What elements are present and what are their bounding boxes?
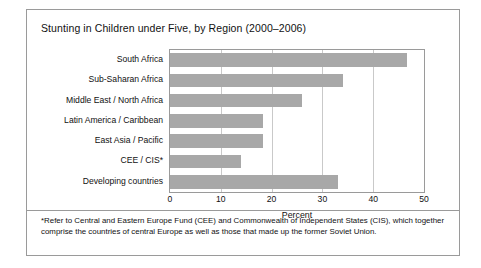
plot-area xyxy=(169,49,425,193)
bar-row xyxy=(170,151,424,171)
bar xyxy=(170,155,241,169)
bar xyxy=(170,74,343,88)
category-label: Developing countries xyxy=(83,171,163,191)
bar xyxy=(170,94,302,108)
bar-row xyxy=(170,172,424,192)
x-tick-label: 40 xyxy=(368,194,378,204)
x-tick-label: 0 xyxy=(168,194,173,204)
category-label: Sub-Saharan Africa xyxy=(88,69,163,89)
x-tick-label: 30 xyxy=(318,194,328,204)
category-label: South Africa xyxy=(117,49,163,69)
category-label: CEE / CIS* xyxy=(120,150,163,170)
x-tick-label: 10 xyxy=(216,194,226,204)
bar-row xyxy=(170,131,424,151)
category-axis: South AfricaSub-Saharan AfricaMiddle Eas… xyxy=(27,49,169,191)
bar-row xyxy=(170,111,424,131)
x-tick-label: 50 xyxy=(419,194,429,204)
bar-row xyxy=(170,70,424,90)
plot-wrapper: South AfricaSub-Saharan AfricaMiddle Eas… xyxy=(27,49,461,199)
chart-footnote: *Refer to Central and Eastern Europe Fun… xyxy=(41,216,447,237)
footnote-divider xyxy=(27,210,459,211)
category-label: East Asia / Pacific xyxy=(95,130,163,150)
bar xyxy=(170,175,338,189)
chart-figure: Stunting in Children under Five, by Regi… xyxy=(26,9,460,256)
chart-title: Stunting in Children under Five, by Regi… xyxy=(41,22,306,34)
bar xyxy=(170,53,407,67)
bar-row xyxy=(170,91,424,111)
x-tick-label: 20 xyxy=(267,194,277,204)
bar xyxy=(170,134,263,148)
category-label: Latin America / Caribbean xyxy=(64,110,163,130)
bar xyxy=(170,114,263,128)
category-label: Middle East / North Africa xyxy=(66,90,163,110)
bar-row xyxy=(170,50,424,70)
